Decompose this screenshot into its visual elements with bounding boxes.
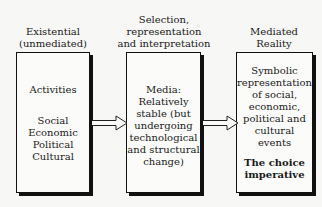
box-line: change) bbox=[127, 156, 200, 168]
box-line: Symbolic bbox=[237, 65, 312, 77]
box-line: stable (but bbox=[127, 108, 200, 120]
header-line: Selection, bbox=[108, 14, 220, 26]
header-line: Existential bbox=[6, 26, 100, 38]
arrow-right-icon bbox=[92, 115, 128, 131]
box-line: events bbox=[237, 137, 312, 149]
media-box: Media: Relatively stable (but undergoing… bbox=[126, 52, 201, 193]
header-existential: Existential (unmediated) bbox=[6, 26, 100, 50]
box-line: Political bbox=[17, 139, 89, 151]
box-line: and structural bbox=[127, 144, 200, 156]
header-line: (unmediated) bbox=[6, 38, 100, 50]
header-line: Reality bbox=[226, 38, 322, 50]
box-line: Cultural bbox=[17, 151, 89, 163]
header-line: and interpretation bbox=[108, 38, 220, 50]
box-line: economic, bbox=[237, 101, 312, 113]
box-line: technological bbox=[127, 132, 200, 144]
box-line: representation bbox=[237, 77, 312, 89]
box-line: Social bbox=[17, 115, 89, 127]
header-line: representation bbox=[108, 26, 220, 38]
mediated-reality-box: Symbolic representation of social, econo… bbox=[236, 52, 313, 193]
choice-imperative-line: imperative bbox=[237, 169, 312, 181]
header-line: Mediated bbox=[226, 26, 322, 38]
choice-imperative-line: The choice bbox=[237, 157, 312, 169]
box-line: Relatively bbox=[127, 96, 200, 108]
header-selection: Selection, representation and interpreta… bbox=[108, 14, 220, 50]
box-line: political and bbox=[237, 113, 312, 125]
header-mediated-reality: Mediated Reality bbox=[226, 26, 322, 50]
arrow-right-icon bbox=[203, 115, 239, 131]
box-line: Media: bbox=[127, 84, 200, 96]
box-line: Economic bbox=[17, 127, 89, 139]
activities-label: Activities bbox=[17, 84, 89, 96]
existential-box: Activities Social Economic Political Cul… bbox=[16, 52, 90, 193]
box-line: of social, bbox=[237, 89, 312, 101]
box-line: undergoing bbox=[127, 120, 200, 132]
box-line: cultural bbox=[237, 125, 312, 137]
